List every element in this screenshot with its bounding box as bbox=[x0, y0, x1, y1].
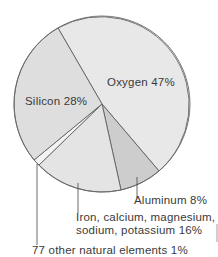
label-other: 77 other natural elements 1% bbox=[32, 244, 188, 257]
label-oxygen: Oxygen 47% bbox=[107, 76, 175, 89]
label-silicon: Silicon 28% bbox=[25, 95, 87, 108]
label-aluminum: Aluminum 8% bbox=[134, 194, 207, 207]
label-iron-line2: sodium, potassium 16% bbox=[76, 224, 202, 237]
label-iron-line1: Iron, calcium, magnesium, bbox=[76, 211, 215, 224]
edge-mark bbox=[216, 224, 218, 242]
